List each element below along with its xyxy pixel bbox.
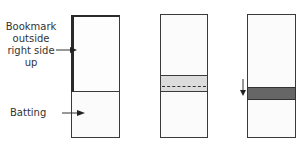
bookmark-arrow-icon <box>56 45 78 55</box>
batting-label: Batting <box>10 107 60 119</box>
panel-2-stitch-line <box>162 86 206 87</box>
panel-2-folded-band <box>160 75 208 92</box>
bookmark-label: Bookmark outside right side up <box>0 21 62 69</box>
panel-1-bookmark <box>71 15 120 92</box>
fold-down-arrow-icon <box>239 79 247 97</box>
panel-3-binding-band <box>247 87 296 100</box>
batting-arrow-icon <box>62 108 86 118</box>
panel-3 <box>247 14 296 138</box>
